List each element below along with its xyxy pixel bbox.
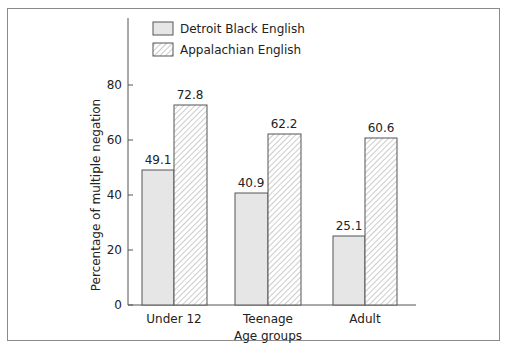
bar-appalachian-under-12	[174, 105, 207, 305]
legend-swatch-detroit	[153, 22, 173, 35]
x-tick-label: Adult	[349, 312, 381, 326]
y-tick-label: 60	[107, 133, 122, 147]
legend-swatch-appalachian	[153, 43, 173, 56]
bars-adult: 25.1 60.6	[333, 121, 397, 305]
x-tick-label: Teenage	[242, 312, 293, 326]
legend-label: Appalachian English	[180, 43, 301, 57]
bar-chart: 0 20 40 60 80 Percentage of multiple neg…	[0, 0, 507, 353]
value-label: 25.1	[336, 219, 363, 233]
y-tick-label: 20	[107, 243, 122, 257]
y-tick-label: 0	[114, 298, 122, 312]
x-tick-label: Under 12	[146, 312, 201, 326]
bars-under-12: 49.1 72.8	[142, 88, 207, 305]
legend-label: Detroit Black English	[180, 22, 305, 36]
bar-detroit-adult	[333, 236, 365, 305]
y-tick-label: 40	[107, 188, 122, 202]
legend: Detroit Black English Appalachian Englis…	[153, 22, 305, 57]
value-label: 40.9	[238, 176, 265, 190]
x-axis-title: Age groups	[234, 329, 302, 343]
bar-detroit-under-12	[142, 170, 174, 305]
y-tick-label: 80	[107, 78, 122, 92]
y-ticks: 0 20 40 60 80	[107, 78, 133, 312]
value-label: 49.1	[145, 153, 172, 167]
y-axis-title: Percentage of multiple negation	[89, 99, 103, 291]
bar-detroit-teenage	[235, 193, 268, 305]
bar-appalachian-teenage	[268, 134, 301, 305]
bar-appalachian-adult	[365, 138, 397, 305]
value-label: 60.6	[368, 121, 395, 135]
value-label: 72.8	[177, 88, 204, 102]
bars-teenage: 40.9 62.2	[235, 117, 301, 305]
value-label: 62.2	[271, 117, 298, 131]
